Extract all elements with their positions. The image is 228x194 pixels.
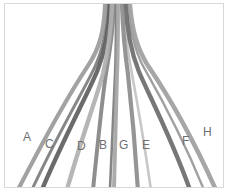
strand-a	[19, 4, 105, 187]
plot-frame: ABCDEFGH	[4, 3, 224, 188]
strand-label-h: H	[203, 126, 212, 138]
strand-h	[130, 4, 215, 187]
strand-label-c: C	[45, 138, 54, 150]
strand-g	[114, 4, 118, 187]
strand-label-f: F	[182, 135, 189, 147]
strand-label-e: E	[142, 139, 150, 151]
strand-label-b: B	[99, 139, 107, 151]
strand-label-a: A	[23, 131, 31, 143]
strand-group	[19, 4, 215, 187]
strand-label-d: D	[77, 140, 86, 152]
strand-label-g: G	[119, 139, 128, 151]
strand-bundle-figure: ABCDEFGH	[0, 0, 228, 194]
strand-canvas	[5, 4, 223, 187]
